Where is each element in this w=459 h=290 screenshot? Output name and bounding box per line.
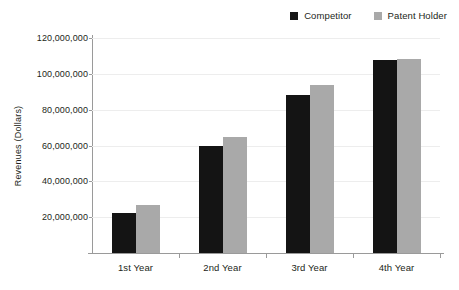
y-axis-tick-label: 40,000,000 (6, 177, 88, 186)
x-axis-tick-label: 2nd Year (179, 262, 266, 273)
bar-patent-holder (310, 85, 334, 253)
bar-competitor (199, 146, 223, 254)
bar-patent-holder (397, 59, 421, 253)
bar-group (179, 38, 266, 253)
bar-group (266, 38, 353, 253)
y-axis-tick-label: 120,000,000 (6, 34, 88, 43)
x-axis-tick-label: 1st Year (92, 262, 179, 273)
legend-item-competitor: Competitor (290, 11, 351, 21)
legend-label-competitor: Competitor (304, 11, 351, 21)
x-axis-tick-mark (440, 254, 441, 258)
y-axis-tick-label: 100,000,000 (6, 70, 88, 79)
legend-label-patent-holder: Patent Holder (388, 11, 447, 21)
bar-competitor (286, 95, 310, 253)
legend-item-patent-holder: Patent Holder (374, 11, 447, 21)
x-axis-tick-label: 4th Year (353, 262, 440, 273)
x-axis-tick-mark (266, 254, 267, 258)
chart-legend: Competitor Patent Holder (0, 8, 459, 24)
legend-swatch-patent-holder-icon (374, 12, 382, 20)
bar-chart: Competitor Patent Holder Revenues (Dolla… (0, 0, 459, 290)
x-axis-tick-label: 3rd Year (266, 262, 353, 273)
bar-competitor (112, 213, 136, 253)
legend-swatch-competitor-icon (290, 12, 298, 20)
y-axis-tick-label: 20,000,000 (6, 213, 88, 222)
bar-group (92, 38, 179, 253)
x-axis-tick-mark (179, 254, 180, 258)
bar-patent-holder (223, 137, 247, 253)
bar-competitor (373, 60, 397, 254)
bar-group (353, 38, 440, 253)
y-axis-tick-label: 80,000,000 (6, 106, 88, 115)
bar-patent-holder (136, 205, 160, 253)
y-axis-tick-label: 60,000,000 (6, 142, 88, 151)
plot-area (92, 38, 440, 253)
y-axis-tick-labels: 20,000,00040,000,00060,000,00080,000,000… (0, 38, 88, 253)
x-axis-tick-mark (353, 254, 354, 258)
